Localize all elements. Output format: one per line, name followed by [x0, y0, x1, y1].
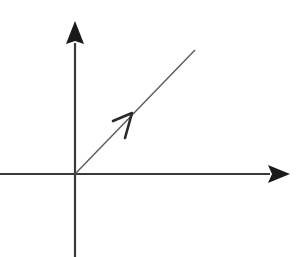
vector-diagram: [0, 0, 300, 257]
diagram-canvas: [0, 0, 300, 257]
vector-line: [75, 50, 195, 174]
x-axis-arrowhead-icon: [268, 165, 290, 183]
y-axis-arrowhead-icon: [66, 21, 84, 44]
